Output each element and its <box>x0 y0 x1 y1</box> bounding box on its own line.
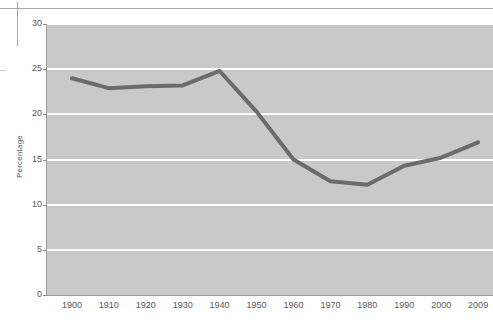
data-line-percentage <box>72 71 478 185</box>
line-chart: 051015202530 190019101920193019401950196… <box>0 0 493 322</box>
chart-page: 051015202530 190019101920193019401950196… <box>0 0 493 322</box>
series-layer <box>0 0 493 322</box>
